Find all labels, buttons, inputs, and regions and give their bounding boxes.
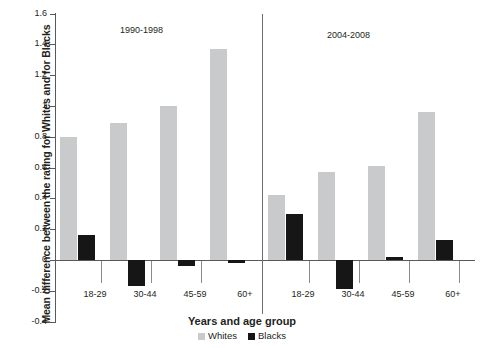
y-tick-label: 1.6 [7, 9, 47, 18]
bar-whites [160, 106, 177, 260]
x-category-label: 18-29 [276, 289, 330, 299]
x-tick-mark [151, 261, 152, 283]
panel-title-1990-1998: 1990-1998 [120, 25, 163, 35]
bar-blacks [128, 260, 145, 286]
x-category-label: 60+ [218, 289, 272, 299]
chart-legend: Whites Blacks [0, 331, 484, 341]
bar-whites [110, 123, 127, 260]
bar-blacks [228, 260, 245, 263]
legend-label-blacks: Blacks [258, 331, 286, 341]
y-tick-mark [50, 75, 56, 76]
y-tick-mark [50, 291, 56, 292]
y-tick-mark [50, 137, 56, 138]
y-tick-label: 0.4 [7, 193, 47, 202]
bar-blacks [78, 235, 95, 260]
y-tick-mark [50, 198, 56, 199]
x-category-label: 18-29 [68, 289, 122, 299]
y-tick-mark [50, 44, 56, 45]
y-tick-mark [50, 14, 56, 15]
x-category-label: 30-44 [118, 289, 172, 299]
x-tick-mark [309, 261, 310, 283]
x-tick-mark [101, 261, 102, 283]
bar-blacks [336, 260, 353, 289]
y-tick-label: 1 [7, 101, 47, 110]
y-tick-label: 0.6 [7, 163, 47, 172]
y-tick-mark [50, 260, 56, 261]
legend-swatch-blacks [248, 333, 255, 340]
x-tick-mark [359, 261, 360, 283]
x-axis-title: Years and age group [0, 315, 484, 327]
bar-whites [60, 137, 77, 260]
bar-whites [210, 49, 227, 260]
y-tick-mark [50, 106, 56, 107]
chart-container: Mean difference between the rating for W… [0, 0, 484, 348]
y-tick-label: 1.4 [7, 39, 47, 48]
zero-baseline [56, 260, 475, 261]
legend-item-whites: Whites [198, 331, 237, 341]
y-tick-label: 0.8 [7, 132, 47, 141]
y-tick-label: 0.2 [7, 224, 47, 233]
bar-blacks [386, 257, 403, 260]
panel-title-2004-2008: 2004-2008 [327, 30, 370, 40]
bar-whites [368, 166, 385, 260]
x-tick-mark [409, 261, 410, 283]
bar-whites [318, 172, 335, 260]
x-tick-mark [201, 261, 202, 283]
panel-separator-line [262, 14, 263, 314]
y-tick-label: 1.2 [7, 70, 47, 79]
y-tick-label: -0.2 [7, 286, 47, 295]
y-tick-label: 0 [7, 255, 47, 264]
bar-whites [268, 195, 285, 260]
legend-item-blacks: Blacks [248, 331, 286, 341]
x-tick-mark [459, 261, 460, 283]
x-category-label: 45-59 [376, 289, 430, 299]
x-category-label: 30-44 [326, 289, 380, 299]
bar-blacks [178, 260, 195, 266]
x-category-label: 45-59 [168, 289, 222, 299]
legend-swatch-whites [198, 333, 205, 340]
legend-label-whites: Whites [208, 331, 237, 341]
bar-blacks [436, 240, 453, 260]
bar-whites [418, 112, 435, 260]
x-category-label: 60+ [426, 289, 480, 299]
y-tick-mark [50, 229, 56, 230]
y-tick-mark [50, 168, 56, 169]
bar-blacks [286, 214, 303, 260]
